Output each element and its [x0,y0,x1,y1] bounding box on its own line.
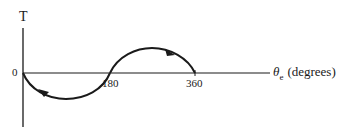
x-axis-unit: (degrees) [287,64,335,79]
curve-positive-lobe [110,48,195,73]
x-tick-label-360: 360 [186,78,203,89]
x-axis-subscript: e [279,72,283,82]
x-tick-label-180: 180 [102,78,119,89]
origin-label: 0 [12,67,18,78]
x-axis-label: θe(degrees) [273,65,336,78]
torque-angle-diagram: T 0 180 360 θe(degrees) [0,0,349,131]
y-axis-label: T [19,10,28,24]
curve-negative-lobe [23,73,110,99]
